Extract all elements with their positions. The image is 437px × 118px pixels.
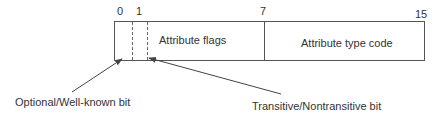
bit-label-7: 7 <box>260 6 266 17</box>
attribute-flags-label: Attribute flags <box>159 34 226 46</box>
transitive-nontransitive-bit-label: Transitive/Nontransitive bit <box>252 100 381 112</box>
optional-bit-arrow <box>72 59 122 92</box>
optional-wellknown-bit-label: Optional/Well-known bit <box>15 96 130 108</box>
bit-label-1: 1 <box>136 6 142 17</box>
transitive-bit-arrow <box>149 58 281 94</box>
bit-label-15: 15 <box>415 9 427 20</box>
attribute-type-code-label: Attribute type code <box>301 37 393 49</box>
bit-label-0: 0 <box>117 6 123 17</box>
